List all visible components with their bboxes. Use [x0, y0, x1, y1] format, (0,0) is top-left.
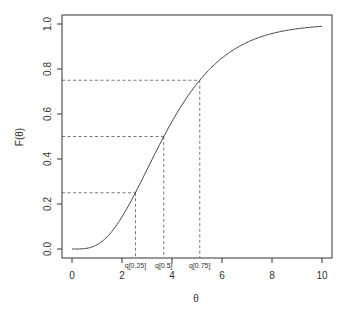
quantile-guides	[62, 80, 200, 258]
cdf-curve	[72, 26, 322, 249]
x-tick-label: 8	[269, 270, 275, 281]
y-tick-label: 1.0	[42, 17, 53, 31]
x-tick-label: 2	[119, 270, 125, 281]
x-tick-label: 6	[219, 270, 225, 281]
x-tick-label: 10	[316, 270, 328, 281]
y-tick-label: 0.2	[42, 197, 53, 211]
cdf-chart: 0246810 0.00.20.40.60.81.0 q[0.25]q[0.5]…	[0, 0, 349, 313]
quantile-labels: q[0.25]q[0.5]q[0.75]	[125, 262, 211, 270]
quantile-label: q[0.25]	[125, 262, 146, 270]
quantile-label: q[0.5]	[155, 262, 173, 270]
y-axis: 0.00.20.40.60.81.0	[42, 17, 62, 256]
y-tick-label: 0.4	[42, 152, 53, 166]
x-tick-label: 4	[169, 270, 175, 281]
y-tick-label: 0.0	[42, 242, 53, 256]
y-tick-label: 0.8	[42, 62, 53, 76]
y-tick-label: 0.6	[42, 107, 53, 121]
y-axis-title: F(θ)	[14, 128, 25, 146]
quantile-label: q[0.75]	[189, 262, 210, 270]
x-tick-label: 0	[69, 270, 75, 281]
x-axis-title: θ	[193, 293, 199, 304]
